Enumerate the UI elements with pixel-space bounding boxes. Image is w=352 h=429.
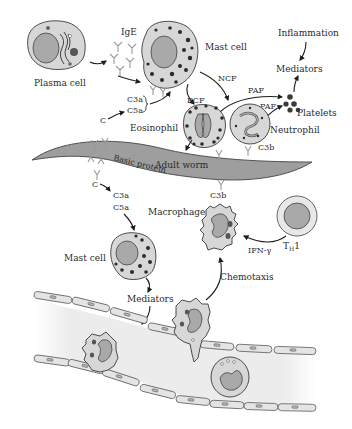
arrow-ifn-gamma bbox=[244, 236, 286, 242]
label-mediators-top: Mediators bbox=[276, 64, 323, 74]
label-mast-cell-bottom: Mast cell bbox=[64, 253, 106, 263]
label-ecf: ECF bbox=[187, 96, 205, 105]
label-paf-1: PAF bbox=[248, 86, 264, 95]
label-macrophage: Macrophage bbox=[148, 207, 205, 217]
label-ncf: NCF bbox=[218, 74, 237, 83]
arrow-c5a-to-mast bbox=[124, 214, 134, 230]
plasma-cell bbox=[28, 21, 86, 70]
label-mediators-bottom: Mediators bbox=[127, 294, 174, 304]
label-th1: TH1 bbox=[283, 241, 300, 252]
arrow-c-to-c3a-bottom bbox=[100, 184, 110, 191]
th1-cell bbox=[277, 196, 317, 236]
neutrophil bbox=[230, 104, 270, 144]
mast-cell-top bbox=[142, 21, 198, 97]
label-c3b-neutrophil: C3b bbox=[258, 143, 274, 152]
label-c5a-bottom: C5a bbox=[113, 203, 129, 212]
immune-response-diagram: Plasma cell IgE Mast cell C3a C5a C ECF … bbox=[0, 0, 352, 429]
arrow-ige-to-mast bbox=[118, 76, 140, 82]
label-neutrophil: Neutrophil bbox=[270, 125, 320, 135]
mast-cell-bottom bbox=[111, 233, 156, 280]
label-chemotaxis: Chemotaxis bbox=[220, 272, 274, 282]
blood-vessel bbox=[34, 291, 316, 411]
macrophage bbox=[200, 204, 238, 250]
leukocyte-in-lumen bbox=[211, 357, 249, 397]
label-ige: IgE bbox=[121, 27, 137, 37]
label-eosinophil: Eosinophil bbox=[130, 123, 178, 133]
ige-antibodies: IgE bbox=[110, 27, 137, 76]
label-c3a-bottom: C3a bbox=[113, 191, 129, 200]
arrow-c-to-c3a bbox=[108, 112, 124, 119]
arrow-platelets-to-mediators bbox=[294, 76, 298, 92]
label-c-bottom: C bbox=[92, 180, 98, 189]
arrow-mast-to-mediators bbox=[146, 278, 150, 292]
label-c-top: C bbox=[100, 116, 106, 125]
label-c3b-macrophage: C3b bbox=[210, 191, 226, 200]
label-c3a-top: C3a bbox=[127, 95, 143, 104]
label-platelets: Platelets bbox=[297, 108, 337, 118]
label-plasma-cell: Plasma cell bbox=[34, 78, 86, 88]
label-mast-cell-top: Mast cell bbox=[205, 42, 247, 52]
label-ifn-gamma: IFN-γ bbox=[248, 246, 271, 255]
arrow-plasma-to-ige bbox=[90, 61, 106, 64]
arrow-inflammation-to-mediators bbox=[300, 42, 306, 60]
label-c5a-top: C5a bbox=[127, 106, 143, 115]
eosinophil bbox=[184, 104, 226, 147]
label-inflammation: Inflammation bbox=[278, 28, 339, 38]
